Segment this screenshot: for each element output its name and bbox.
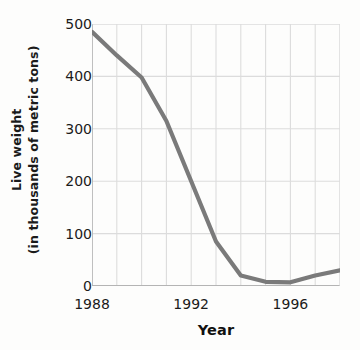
y-axis-title-line1: Live weight bbox=[9, 109, 24, 191]
chart-svg bbox=[92, 24, 340, 286]
y-tick-label: 500 bbox=[48, 16, 92, 32]
y-tick-label: 100 bbox=[48, 226, 92, 242]
x-tick-label: 1988 bbox=[74, 296, 110, 312]
y-tick-label: 300 bbox=[48, 121, 92, 137]
y-axis-title-line2: (in thousands of metric tons) bbox=[26, 46, 43, 255]
y-tick-label: 0 bbox=[48, 278, 92, 294]
x-gridlines bbox=[92, 24, 340, 286]
plot-area bbox=[92, 24, 340, 286]
x-tick-label: 1996 bbox=[273, 296, 309, 312]
chart-figure: Live weight (in thousands of metric tons… bbox=[0, 0, 360, 350]
x-tick-label: 1992 bbox=[173, 296, 209, 312]
y-tick-label: 200 bbox=[48, 173, 92, 189]
x-axis-title: Year bbox=[92, 322, 340, 338]
y-tick-label: 400 bbox=[48, 68, 92, 84]
